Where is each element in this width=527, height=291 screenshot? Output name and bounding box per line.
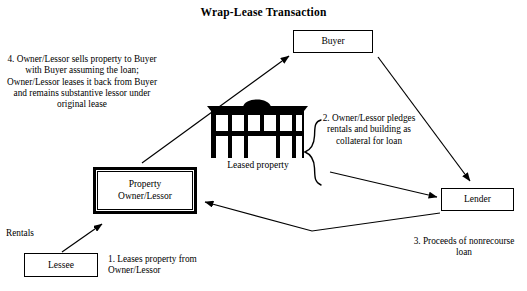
brace-to-lender-arrow — [330, 172, 437, 197]
node-property-owner-lessor-inner: Property Owner/Lessor — [97, 171, 193, 210]
lender-to-owner-arrow — [205, 202, 440, 231]
lessee-to-owner-arrow — [62, 224, 102, 252]
node-buyer-label: Buyer — [321, 36, 344, 47]
leased-property-caption: Leased property — [198, 160, 318, 170]
node-lender[interactable]: Lender — [441, 188, 514, 211]
note-step-4: 4. Owner/Lessor sells property to Buyer … — [2, 54, 162, 111]
node-buyer[interactable]: Buyer — [293, 30, 373, 53]
node-property-owner-lessor[interactable]: Property Owner/Lessor — [93, 167, 197, 214]
node-lender-label: Lender — [464, 194, 491, 205]
note-step-3: 3. Proceeds of nonrecourse loan — [405, 236, 523, 259]
note-step-1: 1. Leases property from Owner/Lessor — [108, 254, 218, 277]
rentals-label: Rentals — [6, 228, 34, 238]
office-building-icon — [207, 98, 308, 158]
node-lessee-label: Lessee — [48, 260, 74, 271]
node-lessee[interactable]: Lessee — [24, 253, 98, 277]
node-property-owner-lessor-label: Property Owner/Lessor — [118, 179, 172, 202]
owner-label-line1: Property — [129, 179, 162, 189]
owner-label-line2: Owner/Lessor — [118, 191, 172, 201]
note-step-2: 2. Owner/Lessor pledges rentals and buil… — [318, 113, 420, 147]
wrap-lease-diagram: Wrap-Lease Transaction — [0, 0, 527, 291]
